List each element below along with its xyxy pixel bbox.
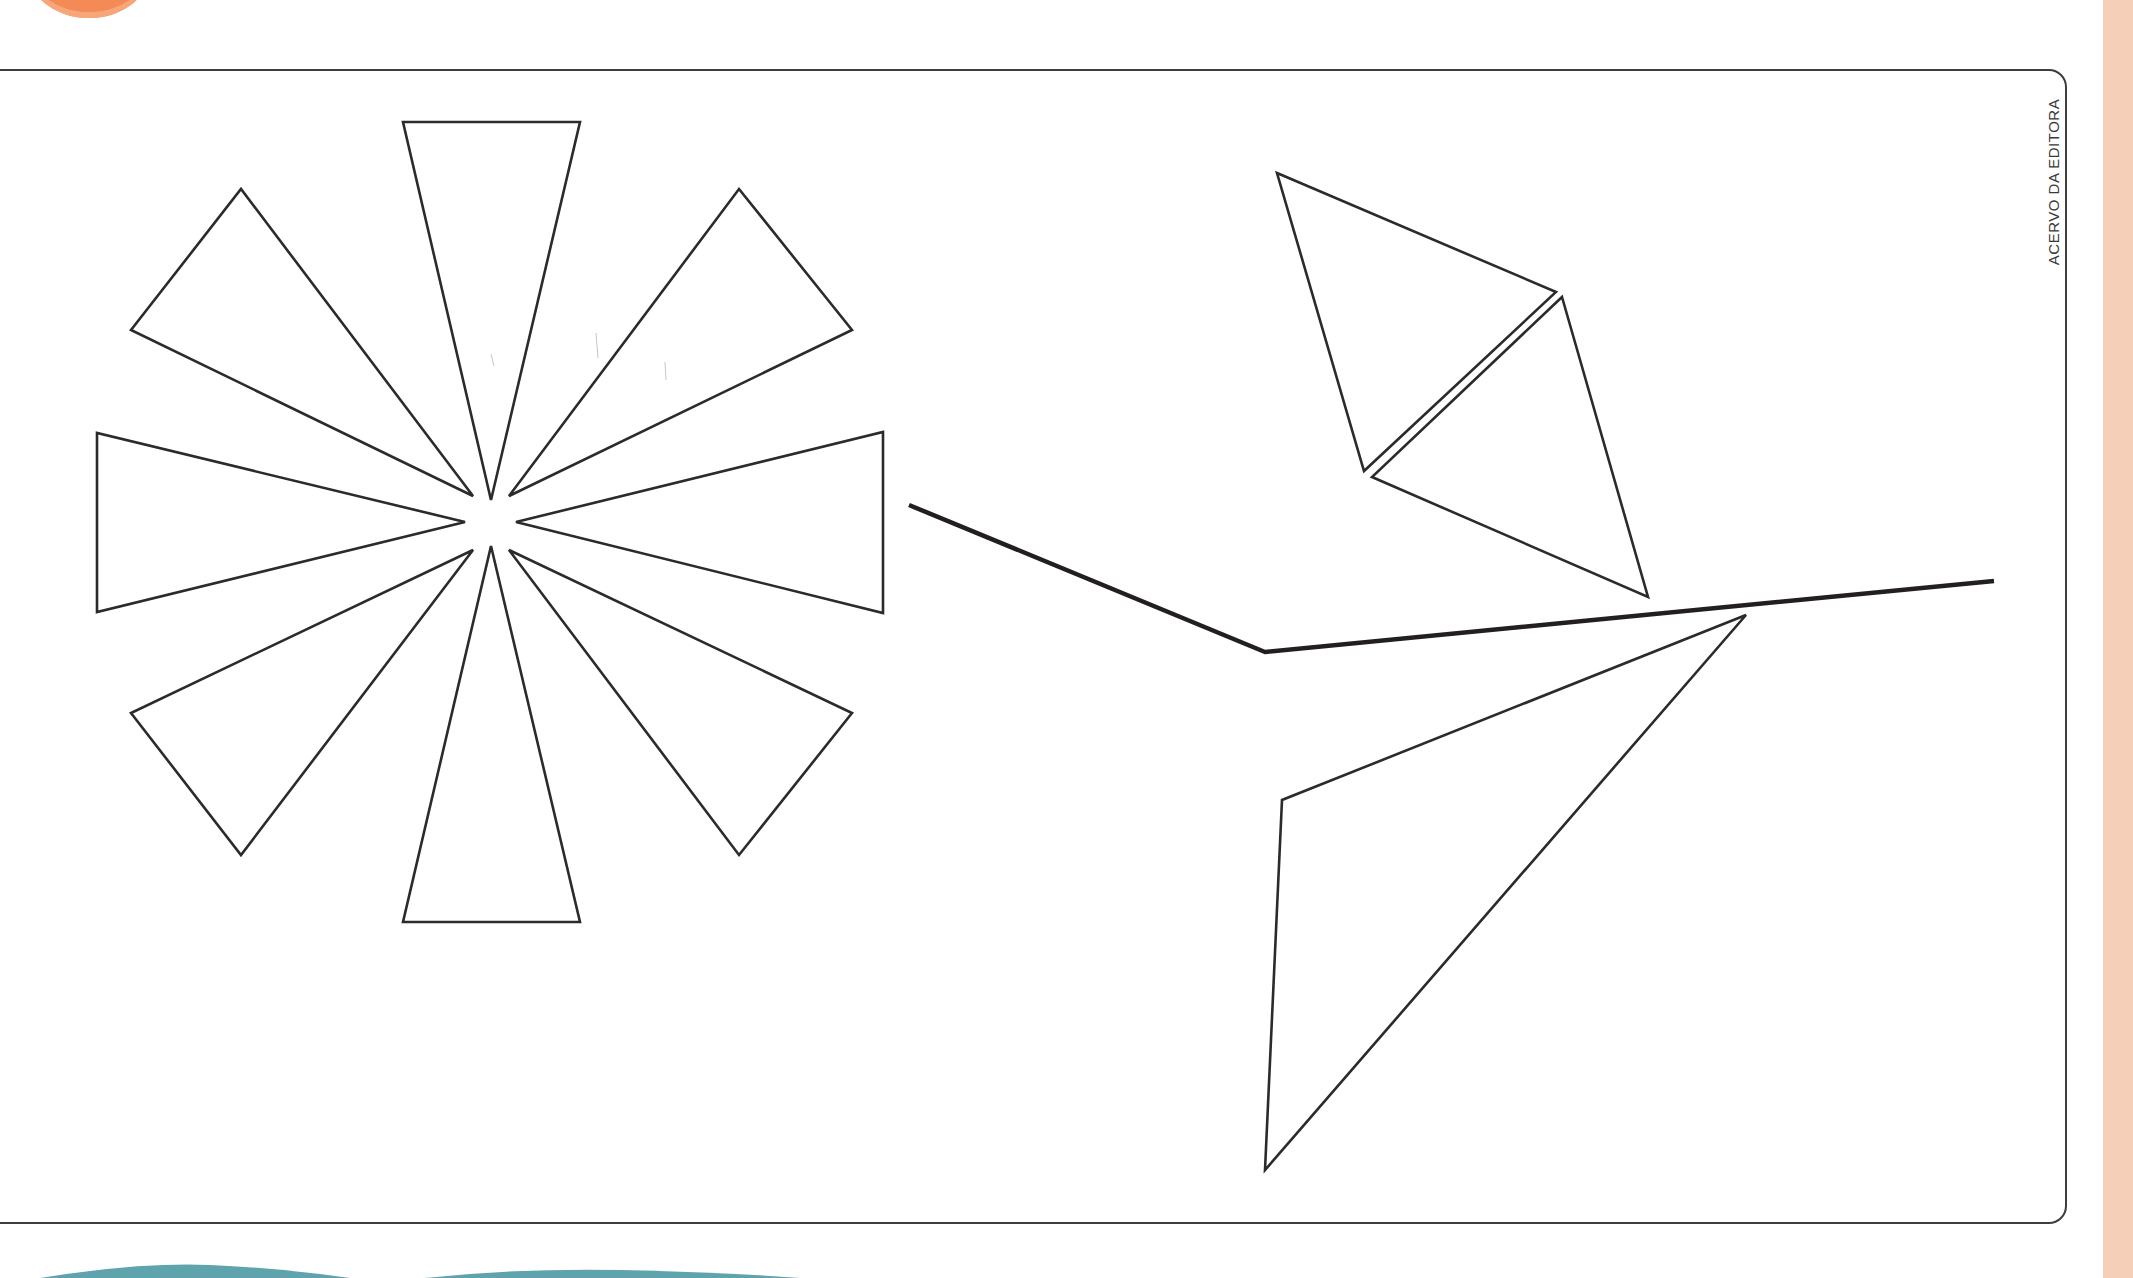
leaves-group	[1265, 173, 1746, 1170]
petal-left	[97, 433, 465, 612]
upper-leaf-b	[1372, 297, 1648, 597]
petal-bottom	[403, 546, 580, 922]
petal-bottom-left	[131, 550, 473, 855]
teal-waves	[40, 1265, 800, 1278]
tangram-flower-illustration	[0, 0, 2133, 1278]
petal-bottom-right	[509, 550, 852, 855]
flower-stem	[909, 505, 1994, 652]
lower-leaf	[1265, 615, 1746, 1170]
petal-top-left	[131, 189, 473, 496]
petal-right	[516, 432, 883, 613]
pencil-marks	[491, 333, 666, 380]
image-credit-label: ACERVO DA EDITORA	[2045, 99, 2062, 265]
flower-figure	[97, 122, 883, 922]
upper-leaf-a	[1277, 173, 1556, 471]
petal-top	[403, 122, 580, 500]
petal-top-right	[509, 189, 852, 496]
